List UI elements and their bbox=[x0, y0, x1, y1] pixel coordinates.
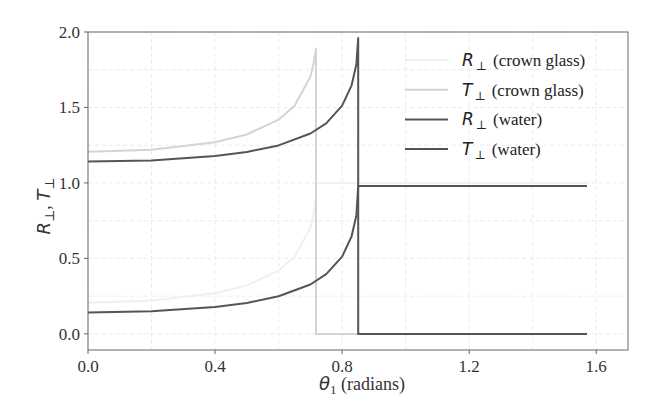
series-line-2 bbox=[88, 186, 587, 313]
legend-label: T⊥(water) bbox=[462, 139, 541, 162]
chart: 0.00.40.81.21.60.00.51.01.52.0 R⊥(crown … bbox=[0, 0, 661, 415]
x-tick-label: 0.0 bbox=[77, 357, 98, 376]
y-tick-label: 0.5 bbox=[59, 249, 80, 268]
ticks: 0.00.40.81.21.60.00.51.01.52.0 bbox=[59, 23, 607, 376]
x-tick-label: 1.2 bbox=[459, 357, 480, 376]
legend-label: R⊥(water) bbox=[462, 109, 542, 132]
x-tick-label: 0.4 bbox=[204, 357, 226, 376]
y-axis-label-text: R⊥, T⊥ bbox=[33, 178, 57, 235]
y-tick-label: 1.0 bbox=[59, 174, 80, 193]
x-tick-label: 1.6 bbox=[586, 357, 607, 376]
x-axis-label: θ1 (radians) bbox=[319, 373, 405, 397]
x-axis-label-symbol: θ bbox=[319, 373, 330, 394]
y-tick-label: 0.0 bbox=[59, 325, 80, 344]
y-tick-label: 2.0 bbox=[59, 23, 80, 42]
y-tick-label: 1.5 bbox=[59, 98, 80, 117]
legend-label: T⊥(crown glass) bbox=[462, 80, 584, 103]
series-line-0 bbox=[88, 183, 587, 303]
legend-label: R⊥(crown glass) bbox=[462, 50, 585, 73]
x-axis-label-text: (radians) bbox=[337, 374, 405, 395]
y-axis-label: R⊥, T⊥ bbox=[33, 178, 57, 235]
